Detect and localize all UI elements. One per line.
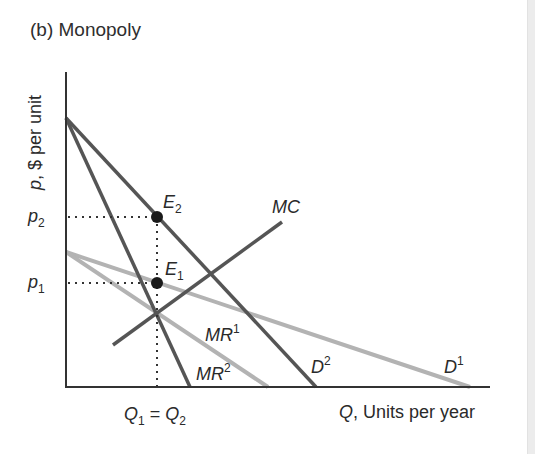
y-axis-label: p, $ per unit: [25, 95, 46, 190]
equilibrium-point-e2: [151, 211, 163, 223]
marginal-revenue-curve-mr2: [66, 118, 190, 387]
p1-label: p1: [28, 273, 45, 291]
x-axis-label: Q, Units per year: [339, 403, 475, 421]
demand-curve-d2: [66, 118, 316, 387]
p2-label: p2: [28, 207, 45, 225]
demand-curve-d1: [66, 252, 470, 387]
e2-label: E2: [163, 193, 182, 211]
d2-label: D2: [311, 358, 331, 376]
mr1-label: MR1: [205, 326, 240, 344]
q1-equals-q2-label: Q1 = Q2: [124, 405, 186, 423]
mc-label: MC: [272, 198, 300, 216]
d1-label: D1: [444, 358, 464, 376]
mr2-label: MR2: [196, 365, 231, 383]
equilibrium-point-e1: [151, 277, 163, 289]
e1-label: E1: [165, 260, 184, 278]
